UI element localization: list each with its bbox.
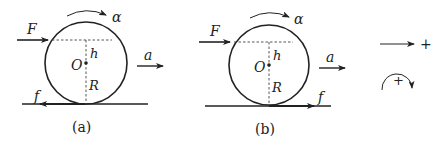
center-label: O (254, 59, 266, 75)
panel-caption: (a) (72, 119, 91, 135)
center-point (267, 63, 271, 67)
height-label: h (90, 46, 98, 61)
height-label: h (273, 48, 281, 63)
accel-label: a (144, 47, 152, 63)
rotational-positive-label: + (393, 73, 404, 88)
force-label: F (26, 21, 38, 37)
center-point (84, 61, 88, 65)
sign-convention: + + (380, 36, 432, 90)
angular-accel-label: α (112, 9, 122, 25)
angular-accel-arrow (250, 13, 289, 18)
friction-label: f (33, 88, 42, 104)
center-label: O (71, 57, 83, 73)
linear-positive-label: + (420, 36, 432, 52)
angular-accel-arrow (67, 11, 106, 16)
accel-label: a (326, 49, 334, 65)
panel-a: F α h O R a f (a) (17, 9, 163, 135)
force-label: F (209, 23, 221, 39)
angular-accel-label: α (294, 11, 304, 27)
physics-diagram: F α h O R a f (a) F α h O R a f (b) (0, 0, 446, 155)
radius-label: R (271, 80, 282, 95)
panel-b: F α h O R a f (b) (199, 11, 345, 137)
panel-caption: (b) (255, 121, 275, 137)
friction-label: f (317, 89, 326, 105)
radius-label: R (88, 78, 99, 93)
